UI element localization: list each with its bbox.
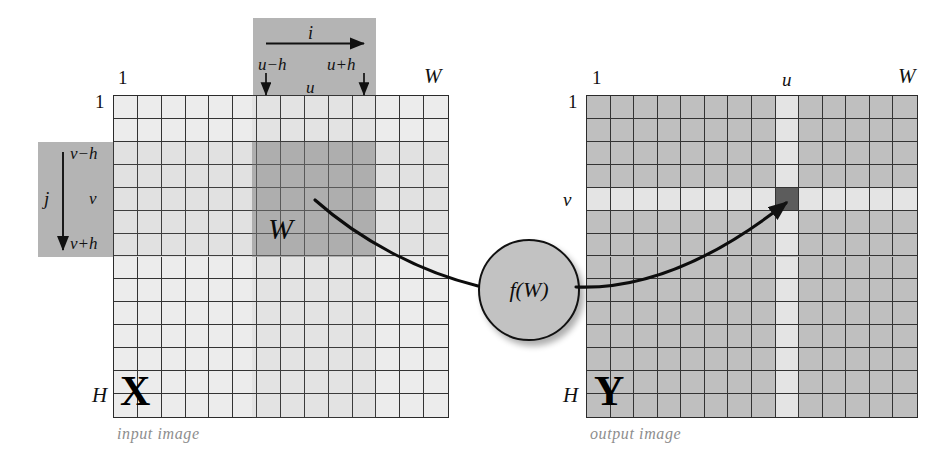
- grid-cell: [823, 142, 847, 165]
- window-center-col-label: u: [306, 79, 315, 96]
- grid-cell: [400, 371, 424, 394]
- grid-cell: [823, 348, 847, 371]
- grid-cell: [799, 142, 823, 165]
- grid-cell: [776, 142, 800, 165]
- grid-cell: [893, 371, 917, 394]
- grid-cell: [634, 348, 658, 371]
- grid-cell: [776, 394, 800, 417]
- grid-cell: [186, 348, 210, 371]
- grid-cell: [658, 302, 682, 325]
- grid-cell: [424, 325, 448, 348]
- grid-cell: [870, 348, 894, 371]
- grid-cell: [587, 279, 611, 302]
- grid-cell: [162, 119, 186, 142]
- grid-cell: [162, 394, 186, 417]
- grid-cell: [799, 348, 823, 371]
- grid-cell: [893, 234, 917, 257]
- grid-cell: [138, 257, 162, 280]
- grid-cell: [846, 257, 870, 280]
- grid-cell: [587, 302, 611, 325]
- grid-cell: [705, 257, 729, 280]
- grid-cell: [138, 119, 162, 142]
- grid-cell: [823, 257, 847, 280]
- grid-cell: [658, 165, 682, 188]
- grid-cell: [209, 279, 233, 302]
- grid-cell: [776, 211, 800, 234]
- input-image-caption: input image: [117, 426, 200, 442]
- grid-cell: [186, 257, 210, 280]
- input-row-start-label: 1: [95, 92, 105, 111]
- grid-cell: [752, 371, 776, 394]
- grid-cell: [799, 325, 823, 348]
- grid-cell: [114, 302, 138, 325]
- grid-cell: [681, 348, 705, 371]
- grid-cell: [611, 302, 635, 325]
- grid-cell: [209, 371, 233, 394]
- grid-cell: [752, 119, 776, 142]
- function-node[interactable]: f(W): [478, 239, 580, 341]
- grid-cell: [587, 211, 611, 234]
- grid-cell: [752, 188, 776, 211]
- grid-cell: [162, 257, 186, 280]
- grid-cell: [634, 142, 658, 165]
- grid-cell: [634, 257, 658, 280]
- grid-cell: [705, 394, 729, 417]
- grid-cell: [870, 394, 894, 417]
- grid-cell: [424, 394, 448, 417]
- grid-cell: [209, 325, 233, 348]
- grid-cell: [799, 302, 823, 325]
- grid-cell: [776, 279, 800, 302]
- grid-cell: [114, 96, 138, 119]
- grid-cell: [752, 234, 776, 257]
- grid-cell: [587, 325, 611, 348]
- grid-cell: [799, 119, 823, 142]
- grid-cell: [376, 394, 400, 417]
- grid-cell: [186, 119, 210, 142]
- grid-cell: [209, 394, 233, 417]
- grid-cell: [114, 257, 138, 280]
- grid-cell: [611, 211, 635, 234]
- grid-cell: [376, 257, 400, 280]
- grid-cell: [424, 279, 448, 302]
- grid-cell: [681, 234, 705, 257]
- grid-cell: [634, 165, 658, 188]
- grid-cell: [893, 279, 917, 302]
- grid-cell: [400, 394, 424, 417]
- grid-cell: [776, 234, 800, 257]
- grid-cell: [658, 394, 682, 417]
- grid-cell: [776, 96, 800, 119]
- output-target-cell: [776, 188, 800, 211]
- grid-cell: [823, 165, 847, 188]
- grid-cell: [186, 302, 210, 325]
- grid-cell: [400, 279, 424, 302]
- grid-cell: [114, 119, 138, 142]
- grid-cell: [658, 371, 682, 394]
- grid-cell: [587, 165, 611, 188]
- grid-cell: [823, 371, 847, 394]
- grid-cell: [823, 96, 847, 119]
- grid-cell: [846, 165, 870, 188]
- grid-cell: [186, 325, 210, 348]
- grid-cell: [752, 325, 776, 348]
- grid-cell: [870, 119, 894, 142]
- grid-cell: [658, 279, 682, 302]
- grid-cell: [846, 325, 870, 348]
- grid-cell: [658, 211, 682, 234]
- grid-cell: [681, 371, 705, 394]
- grid-cell: [634, 302, 658, 325]
- grid-cell: [752, 165, 776, 188]
- grid-cell: [728, 211, 752, 234]
- grid-cell: [728, 234, 752, 257]
- grid-cell: [799, 211, 823, 234]
- grid-cell: [634, 279, 658, 302]
- grid-cell: [823, 325, 847, 348]
- grid-cell: [846, 119, 870, 142]
- grid-cell: [424, 96, 448, 119]
- grid-cell: [728, 394, 752, 417]
- output-row-v-label: v: [563, 190, 571, 209]
- grid-cell: [846, 394, 870, 417]
- grid-cell: [114, 325, 138, 348]
- grid-cell: [893, 394, 917, 417]
- output-col-end-label: W: [898, 66, 916, 87]
- grid-cell: [752, 257, 776, 280]
